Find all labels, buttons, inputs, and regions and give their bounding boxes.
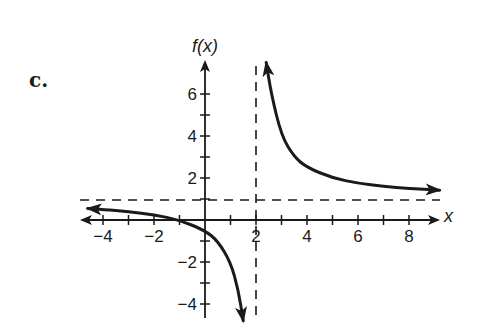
x-tick-label: 4 [302, 227, 311, 246]
y-tick-label: −2 [178, 253, 197, 272]
x-tick-label: −4 [93, 227, 112, 246]
y-tick-label: 6 [188, 85, 197, 104]
x-tick-label: −2 [144, 227, 163, 246]
x-tick-label: 6 [353, 227, 362, 246]
function-graph: −4−22468642−2−4xf(x) [0, 0, 481, 333]
y-tick-label: 4 [188, 127, 197, 146]
asymptotes [80, 66, 440, 322]
y-tick-label: 2 [188, 169, 197, 188]
y-axis-label: f(x) [192, 36, 218, 56]
left-branch-curve [88, 208, 244, 320]
x-tick-label: 2 [251, 227, 260, 246]
x-axis-label: x [443, 206, 454, 226]
tick-labels: −4−22468642−2−4xf(x) [93, 36, 454, 314]
right-branch-curve [266, 63, 439, 191]
axes [82, 62, 438, 318]
curves [88, 63, 440, 321]
x-tick-label: 8 [404, 227, 413, 246]
y-tick-label: −4 [178, 295, 197, 314]
